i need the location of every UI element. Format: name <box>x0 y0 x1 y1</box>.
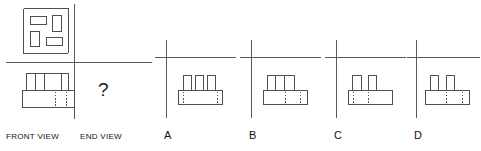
option-d-prism-2 <box>446 76 455 91</box>
option-c-letter: C <box>334 129 342 141</box>
option-a-prism-2 <box>195 76 203 91</box>
plan-rect-bottom-right <box>46 37 62 45</box>
option-a[interactable]: A <box>152 0 237 125</box>
option-b-axis-horizontal <box>240 57 321 58</box>
option-d-axis-vertical <box>416 40 417 118</box>
option-a-base-slab <box>179 91 223 105</box>
plan-rect-bottom-left <box>31 31 40 46</box>
end-view-label: END VIEW <box>80 132 122 141</box>
option-a-letter: A <box>164 129 171 141</box>
option-d-base-slab <box>426 91 470 105</box>
plan-view <box>22 7 72 57</box>
front-view-drawing <box>21 71 79 116</box>
option-c-drawing <box>344 72 404 116</box>
option-a-drawing <box>174 72 234 116</box>
option-a-axis-vertical <box>166 40 167 118</box>
option-b-axis-vertical <box>251 40 252 118</box>
option-d-drawing <box>421 72 481 116</box>
option-c-prism-1 <box>353 76 362 91</box>
given-views-panel: ? FRONT VIEW END VIEW <box>0 0 152 125</box>
option-c[interactable]: C <box>322 0 407 125</box>
plan-rect-top-left <box>30 16 46 24</box>
option-c-prism-2 <box>368 76 377 91</box>
option-a-axis-horizontal <box>155 57 236 58</box>
option-d-axis-horizontal <box>407 57 480 58</box>
option-d-prism-1 <box>430 76 439 91</box>
option-d-letter: D <box>414 129 422 141</box>
front-base-slab <box>23 91 75 108</box>
option-c-axis-horizontal <box>325 57 406 58</box>
option-c-base-slab <box>349 91 393 105</box>
option-a-prism-3 <box>207 76 215 91</box>
front-view <box>21 71 79 116</box>
front-view-label: FRONT VIEW <box>6 132 59 141</box>
option-b[interactable]: B <box>237 0 322 125</box>
front-top-block-depth <box>62 74 69 91</box>
given-axis-horizontal <box>6 62 152 63</box>
option-b-top-block <box>268 76 295 91</box>
option-b-drawing <box>259 72 319 116</box>
missing-view-question-mark: ? <box>98 79 109 101</box>
option-d[interactable]: D <box>407 0 473 125</box>
option-a-prism-1 <box>184 76 192 91</box>
option-c-axis-vertical <box>336 40 337 118</box>
plan-view-drawing <box>22 7 72 57</box>
option-b-letter: B <box>249 129 256 141</box>
plan-rect-top-right <box>53 15 62 31</box>
